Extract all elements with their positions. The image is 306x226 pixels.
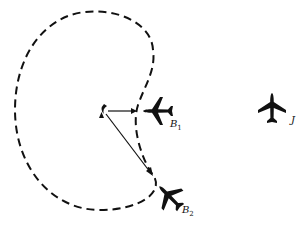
beam-arrow-b1	[108, 108, 137, 114]
label-b2: B2	[182, 204, 194, 218]
aircraft-j-icon	[258, 93, 286, 123]
diagram-canvas	[0, 0, 306, 226]
radar-antenna-icon	[99, 104, 107, 118]
beam-arrow-b2	[106, 114, 153, 176]
aircraft-b1-icon	[143, 97, 173, 125]
label-j: J	[291, 114, 295, 125]
label-b1-sub: 1	[177, 124, 181, 132]
label-j-main: J	[291, 114, 295, 125]
label-b2-sub: 2	[189, 210, 193, 218]
radar-diagram: B1 B2 J	[0, 0, 306, 226]
label-b1: B1	[170, 118, 182, 132]
